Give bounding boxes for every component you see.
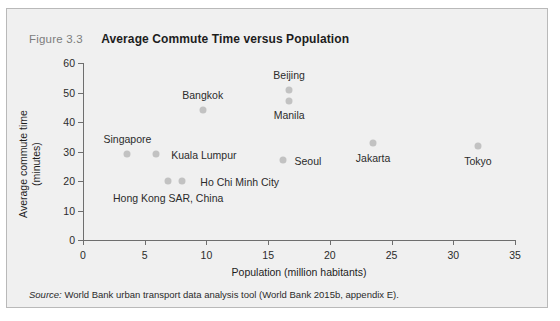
x-tick [515,240,516,245]
figure-panel: Figure 3.3 Average Commute Time versus P… [6,8,548,308]
source-label: Source: [29,289,62,300]
data-point [474,142,481,149]
data-point-label: Hong Kong SAR, China [113,192,223,204]
data-point-label: Tokyo [464,155,491,167]
y-tick-label: 10 [63,205,75,217]
x-tick [268,240,269,245]
x-tick [330,240,331,245]
x-tick-label: 35 [509,249,521,261]
data-point [370,139,377,146]
source-text: World Bank urban transport data analysis… [64,289,398,300]
y-axis-line [83,63,84,240]
x-tick-label: 20 [324,249,336,261]
x-axis-line [83,240,515,241]
x-tick [145,240,146,245]
data-point-label: Kuala Lumpur [171,149,236,161]
x-tick-label: 10 [201,249,213,261]
data-point [178,178,185,185]
scatter-plot: 0102030405060 05101520253035 SingaporeKu… [7,9,549,309]
y-tick-label: 50 [63,87,75,99]
data-point-label: Singapore [103,133,151,145]
x-tick-label: 15 [262,249,274,261]
x-tick [453,240,454,245]
y-tick [78,93,83,94]
y-tick [78,152,83,153]
x-tick [206,240,207,245]
y-tick [78,181,83,182]
x-tick-label: 5 [142,249,148,261]
data-point [165,178,172,185]
data-point-label: Ho Chi Minh City [200,176,279,188]
data-point-label: Beijing [273,69,305,81]
y-tick [78,211,83,212]
x-axis-title: Population (million habitants) [83,266,515,278]
data-point [199,107,206,114]
y-tick [78,63,83,64]
data-point [286,98,293,105]
x-tick-label: 30 [447,249,459,261]
data-point-label: Jakarta [356,152,390,164]
source-note: Source: World Bank urban transport data … [29,289,399,300]
data-point [286,86,293,93]
y-tick [78,122,83,123]
data-point [124,151,131,158]
y-tick-label: 20 [63,175,75,187]
data-point [152,151,159,158]
data-point [279,157,286,164]
data-point-label: Manila [274,109,305,121]
y-axis-title: Average commute time (minutes) [17,89,43,239]
x-tick [392,240,393,245]
x-tick-label: 25 [386,249,398,261]
y-tick-label: 40 [63,116,75,128]
data-point-label: Seoul [295,155,322,167]
y-tick-label: 60 [63,57,75,69]
y-tick-label: 0 [69,234,75,246]
x-tick-label: 0 [80,249,86,261]
data-point-label: Bangkok [182,89,223,101]
y-tick-label: 30 [63,146,75,158]
x-tick [83,240,84,245]
